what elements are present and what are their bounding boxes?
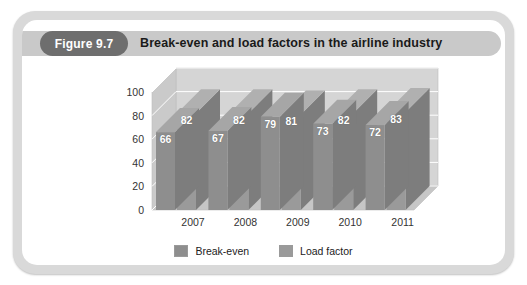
y-axis-tick-40: 40 xyxy=(116,158,144,168)
legend-label-load-factor: Load factor xyxy=(300,245,353,257)
bar-value-load-factor-2008: 82 xyxy=(228,115,250,126)
figure-frame: Figure 9.7 Break-even and load factors i… xyxy=(13,11,514,274)
bar-value-load-factor-2009: 81 xyxy=(280,116,302,127)
x-axis-label-2010: 2010 xyxy=(328,217,372,228)
legend-swatch-load-factor xyxy=(279,245,293,257)
chart-3d-canvas xyxy=(22,60,505,265)
x-axis-label-2007: 2007 xyxy=(171,217,215,228)
figure-title: Break-even and load factors in the airli… xyxy=(140,31,442,56)
y-axis-tick-0: 0 xyxy=(116,205,144,215)
y-axis-tick-80: 80 xyxy=(116,111,144,121)
x-axis-label-2008: 2008 xyxy=(223,217,267,228)
bar-value-load-factor-2007: 82 xyxy=(176,115,198,126)
chart-legend: Break-even Load factor xyxy=(22,242,505,260)
y-axis-tick-100: 100 xyxy=(116,87,144,97)
figure-header-band: Figure 9.7 Break-even and load factors i… xyxy=(22,31,501,56)
bar-chart-plot: 0204060801008266200782672008817920098273… xyxy=(22,60,505,265)
bar-value-break-even-2009: 79 xyxy=(259,119,281,130)
figure-number-badge: Figure 9.7 xyxy=(40,31,128,56)
y-axis-tick-60: 60 xyxy=(116,134,144,144)
x-axis-label-2009: 2009 xyxy=(276,217,320,228)
bar-value-break-even-2008: 67 xyxy=(207,133,229,144)
chart-area: 0204060801008266200782672008817920098273… xyxy=(22,60,505,265)
figure-panel: Figure 9.7 Break-even and load factors i… xyxy=(22,20,505,265)
legend-item-break-even: Break-even xyxy=(174,245,249,257)
y-axis-tick-20: 20 xyxy=(116,181,144,191)
legend-label-break-even: Break-even xyxy=(195,245,249,257)
bar-value-break-even-2007: 66 xyxy=(155,134,177,145)
bar-value-load-factor-2010: 82 xyxy=(333,115,355,126)
bar-value-break-even-2010: 73 xyxy=(312,126,334,137)
bar-value-break-even-2011: 72 xyxy=(364,127,386,138)
x-axis-label-2011: 2011 xyxy=(381,217,425,228)
legend-swatch-break-even xyxy=(174,245,188,257)
legend-item-load-factor: Load factor xyxy=(279,245,353,257)
bar-value-load-factor-2011: 83 xyxy=(385,114,407,125)
